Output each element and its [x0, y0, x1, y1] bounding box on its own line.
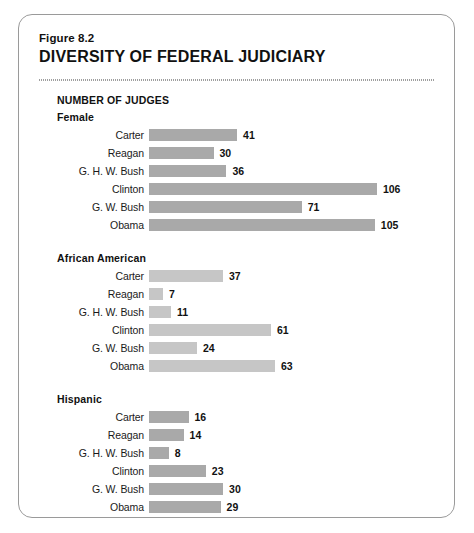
bar-fill [149, 270, 223, 282]
bar-track: 29 [149, 501, 434, 513]
bar-value: 41 [243, 129, 255, 141]
bar-track: 36 [149, 165, 434, 177]
bar-label: G. W. Bush [57, 342, 149, 354]
bar-track: 37 [149, 270, 434, 282]
figure-number: Figure 8.2 [39, 31, 434, 45]
bar-row: Carter 16 [57, 408, 434, 426]
panel-title: Female [57, 111, 434, 123]
chart-panel-hispanic: Hispanic Carter 16 Reagan 14 [57, 393, 434, 516]
bar-row: Obama 29 [57, 498, 434, 516]
bar-fill [149, 411, 189, 423]
bar-row: Reagan 14 [57, 426, 434, 444]
bar-label: G. W. Bush [57, 201, 149, 213]
bar-row: G. W. Bush 71 [57, 198, 434, 216]
bar-label: Obama [57, 501, 149, 513]
bar-row: Carter 41 [57, 126, 434, 144]
bar-track: 71 [149, 201, 434, 213]
bar-value: 11 [177, 306, 188, 318]
bar-fill [149, 429, 184, 441]
bar-fill [149, 465, 206, 477]
bar-row: Obama 63 [57, 357, 434, 375]
bar-value: 24 [203, 342, 215, 354]
bar-track: 63 [149, 360, 434, 372]
bar-label: Carter [57, 411, 149, 423]
bar-row: G. H. W. Bush 36 [57, 162, 434, 180]
chart-panel-female: Female Carter 41 Reagan 30 G [57, 111, 434, 234]
bar-value: 29 [227, 501, 239, 513]
bar-row: Obama 105 [57, 216, 434, 234]
bar-label: G. H. W. Bush [57, 447, 149, 459]
bar-label: Reagan [57, 288, 149, 300]
bar-value: 8 [175, 447, 181, 459]
bar-fill [149, 342, 197, 354]
chart-panel-african-american: African American Carter 37 Reagan 7 [57, 252, 434, 375]
bar-fill [149, 129, 237, 141]
bar-value: 16 [195, 411, 207, 423]
bar-value: 105 [381, 219, 399, 231]
bar-track: 41 [149, 129, 434, 141]
bar-row: Clinton 61 [57, 321, 434, 339]
bar-label: Carter [57, 129, 149, 141]
bar-track: 61 [149, 324, 434, 336]
bar-label: Reagan [57, 429, 149, 441]
bar-fill [149, 288, 163, 300]
bar-value: 37 [229, 270, 241, 282]
bar-track: 23 [149, 465, 434, 477]
bar-value: 23 [212, 465, 224, 477]
bar-value: 63 [281, 360, 293, 372]
bar-row: Clinton 23 [57, 462, 434, 480]
bar-label: G. H. W. Bush [57, 306, 149, 318]
bar-fill [149, 324, 271, 336]
bar-row: G. W. Bush 30 [57, 480, 434, 498]
bar-fill [149, 501, 221, 513]
bar-track: 105 [149, 219, 434, 231]
bar-row: Reagan 7 [57, 285, 434, 303]
bar-value: 36 [232, 165, 244, 177]
bar-track: 24 [149, 342, 434, 354]
bar-label: Clinton [57, 183, 149, 195]
panel-title: African American [57, 252, 434, 264]
figure-card-inner: Figure 8.2 DIVERSITY OF FEDERAL JUDICIAR… [19, 15, 454, 516]
bar-fill [149, 360, 275, 372]
bar-row: G. H. W. Bush 8 [57, 444, 434, 462]
bar-track: 16 [149, 411, 434, 423]
bar-value: 61 [277, 324, 289, 336]
axis-heading: NUMBER OF JUDGES [57, 94, 434, 106]
bar-fill [149, 447, 169, 459]
bar-fill [149, 165, 226, 177]
panel-title: Hispanic [57, 393, 434, 405]
bar-label: Obama [57, 360, 149, 372]
bar-label: G. H. W. Bush [57, 165, 149, 177]
bar-fill [149, 201, 302, 213]
bar-row: Reagan 30 [57, 144, 434, 162]
bar-fill [149, 147, 214, 159]
bar-label: G. W. Bush [57, 483, 149, 495]
bar-fill [149, 219, 375, 231]
bar-label: Clinton [57, 324, 149, 336]
bar-fill [149, 183, 377, 195]
figure-card: Figure 8.2 DIVERSITY OF FEDERAL JUDICIAR… [18, 14, 455, 518]
bar-track: 14 [149, 429, 434, 441]
chart-area: NUMBER OF JUDGES Female Carter 41 Reagan… [39, 94, 434, 516]
bar-track: 7 [149, 288, 434, 300]
bar-label: Reagan [57, 147, 149, 159]
bar-value: 71 [308, 201, 320, 213]
bar-track: 8 [149, 447, 434, 459]
bar-track: 106 [149, 183, 434, 195]
bar-row: Carter 37 [57, 267, 434, 285]
bar-track: 11 [149, 306, 434, 318]
bar-label: Carter [57, 270, 149, 282]
bar-value: 30 [229, 483, 241, 495]
bar-value: 106 [383, 183, 401, 195]
bar-row: G. H. W. Bush 11 [57, 303, 434, 321]
bar-row: Clinton 106 [57, 180, 434, 198]
bar-track: 30 [149, 147, 434, 159]
bar-fill [149, 306, 171, 318]
bar-value: 7 [169, 288, 175, 300]
figure-title: DIVERSITY OF FEDERAL JUDICIARY [39, 47, 434, 68]
bar-fill [149, 483, 223, 495]
bar-label: Obama [57, 219, 149, 231]
bar-row: G. W. Bush 24 [57, 339, 434, 357]
bar-label: Clinton [57, 465, 149, 477]
bar-value: 30 [220, 147, 232, 159]
